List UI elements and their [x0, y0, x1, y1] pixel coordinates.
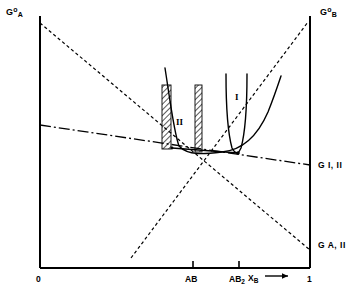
- tangency-point-right: [236, 151, 240, 155]
- diagram-canvas: [0, 0, 361, 298]
- y-axis-right-subscript: B: [332, 11, 337, 18]
- dashed-line-gb1: [131, 22, 308, 258]
- x-axis-arrow-head: [282, 273, 288, 279]
- tangency-point-left: [171, 147, 174, 150]
- curve-label-i: I: [235, 92, 239, 102]
- x-axis-origin-label: 0: [36, 274, 41, 284]
- hatch-bar-left: [162, 85, 171, 149]
- x-tick-label-ab2-text: AB: [229, 274, 241, 284]
- label-g-i-ii: G I, II: [318, 160, 342, 170]
- y-axis-right-label: GoB: [320, 6, 337, 18]
- free-energy-curve-i: [226, 74, 238, 153]
- x-axis-end-label: 1: [307, 274, 312, 284]
- y-axis-left-subscript: A: [18, 11, 23, 18]
- x-tick-label-ab: AB: [185, 274, 197, 284]
- x-axis-label-subscript: B: [254, 277, 259, 284]
- x-tick-label-ab2: AB2: [229, 274, 245, 285]
- label-g-a-ii: G A, II: [318, 240, 346, 250]
- hatch-bar-right: [195, 85, 202, 152]
- figure-container: GoA GoB G I, II G A, II I II 0 1 AB AB2 …: [0, 0, 361, 298]
- x-tick-label-ab2-sub: 2: [241, 278, 245, 285]
- curve-label-ii: II: [176, 117, 183, 127]
- dashed-line-ga2: [40, 23, 310, 250]
- y-axis-left-label: GoA: [6, 6, 23, 18]
- x-tick-label-ab-text: AB: [185, 274, 197, 284]
- x-axis-label: XB: [248, 273, 258, 284]
